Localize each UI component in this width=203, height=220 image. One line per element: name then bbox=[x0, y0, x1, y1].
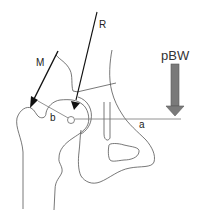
label-lever-arm-a: a bbox=[139, 120, 145, 130]
body-weight-arrow bbox=[166, 64, 184, 116]
label-joint-reaction: R bbox=[99, 20, 106, 30]
obturator-outline bbox=[104, 102, 139, 161]
hip-center-circle bbox=[68, 117, 75, 124]
label-lever-arm-b: b bbox=[50, 113, 56, 123]
label-muscle-force: M bbox=[36, 58, 44, 68]
label-body-weight: pBW bbox=[161, 49, 189, 62]
hip-diagram bbox=[0, 0, 203, 220]
joint-reaction-arrow bbox=[71, 12, 97, 110]
